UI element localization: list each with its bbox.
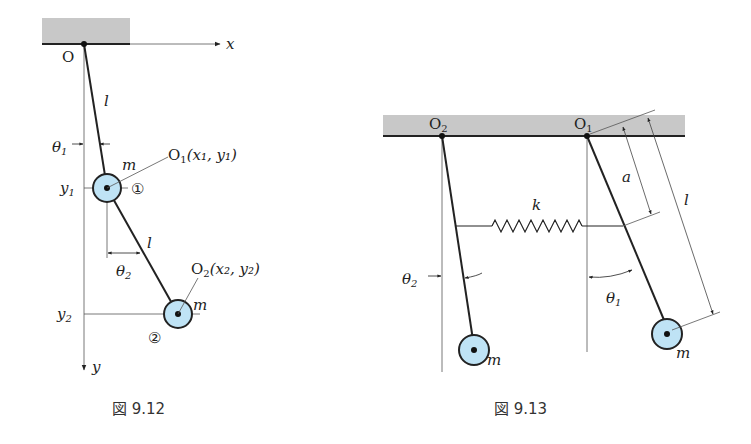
x-axis-label: x [226, 35, 235, 53]
pivot-o1 [584, 133, 590, 139]
circle-label-1: ① [131, 180, 144, 198]
right-mass-center [664, 331, 670, 337]
mass2-label: m [193, 296, 207, 314]
dim-l [648, 118, 713, 314]
dim-ext-mass [672, 312, 720, 330]
theta2-arrow-right [465, 273, 482, 278]
rod1-length-label: l [104, 92, 109, 110]
y2-label: y2 [56, 305, 72, 324]
theta2-label: θ2 [116, 262, 131, 281]
spring [492, 220, 582, 232]
spring-constant-label: k [532, 196, 541, 214]
left-mass-center [471, 347, 477, 353]
point2-label: O2(x₂, y₂) [191, 260, 260, 279]
right-mass-label: m [676, 344, 690, 362]
pivot-o2 [439, 133, 445, 139]
pivot-o [81, 41, 87, 47]
figure-caption: 図 9.12 [112, 400, 165, 418]
left-rod [442, 136, 473, 340]
dim-l-label: l [684, 191, 689, 209]
circle-label-2: ② [148, 329, 161, 347]
theta1-label: θ1 [52, 138, 67, 157]
ceiling-block [42, 18, 130, 43]
point1-label: O1(x₁, y₁) [168, 146, 237, 165]
dim-a-label: a [622, 168, 631, 186]
y1-label: y1 [59, 179, 75, 198]
origin-label: O [62, 48, 74, 66]
theta1-label: θ1 [606, 289, 621, 308]
rod-2 [107, 188, 178, 314]
theta1-arc [589, 270, 632, 277]
figure-9-13: O2 O1 m θ2 m θ1 k a l [383, 110, 720, 418]
rod-1 [84, 44, 107, 188]
dim-ext-spring [623, 212, 660, 226]
figure-caption: 図 9.13 [494, 400, 547, 418]
pendulum-diagrams: x y O l θ1 y1 l θ2 m O1(x₁, y₁) ① y2 [0, 0, 751, 444]
theta2-label: θ2 [402, 270, 417, 289]
mass1-label: m [122, 156, 136, 174]
left-mass-label: m [487, 351, 501, 369]
rod2-length-label: l [147, 234, 152, 252]
y-axis-label: y [91, 358, 101, 376]
figure-9-12: x y O l θ1 y1 l θ2 m O1(x₁, y₁) ① y2 [42, 18, 260, 418]
right-rod [587, 136, 664, 320]
